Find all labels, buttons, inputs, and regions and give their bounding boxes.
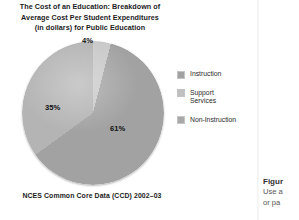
legend-item-non-instruction: Non-Instruction bbox=[177, 116, 257, 125]
chart-title-line-2: Average Cost Per Student Expenditures bbox=[0, 13, 180, 24]
figure-caption-line-1: Use a bbox=[263, 187, 299, 198]
pie-label-instruction: 61% bbox=[110, 124, 125, 133]
legend-label-non-instruction: Non-Instruction bbox=[190, 116, 236, 125]
figure-caption-title: Figur bbox=[263, 176, 299, 187]
legend-swatch-instruction bbox=[177, 71, 185, 79]
chart-source-note: NCES Common Core Data (CCD) 2002–03 bbox=[0, 192, 184, 199]
chart-title-line-1: The Cost of an Education: Breakdown of bbox=[0, 2, 180, 13]
legend-item-support-services: Support Services bbox=[177, 89, 257, 106]
figure-caption-panel: Figur Use a or pa bbox=[263, 176, 299, 208]
pie-disc bbox=[22, 41, 164, 185]
pie-label-support-services: 35% bbox=[45, 103, 60, 112]
pie-chart: 4% 35% 61% bbox=[22, 41, 164, 185]
legend-item-instruction: Instruction bbox=[177, 70, 257, 79]
legend-label-instruction: Instruction bbox=[190, 70, 221, 79]
chart-title: The Cost of an Education: Breakdown of A… bbox=[0, 2, 180, 34]
legend-swatch-non-instruction bbox=[177, 116, 185, 124]
legend-swatch-support-services bbox=[177, 89, 185, 97]
pie-slice-non-instruction bbox=[22, 41, 164, 185]
pie-label-non-instruction: 4% bbox=[82, 36, 93, 45]
page-gutter-divider bbox=[257, 0, 259, 220]
figure-panel: The Cost of an Education: Breakdown of A… bbox=[0, 0, 257, 220]
chart-legend: Instruction Support Services Non-Instruc… bbox=[177, 70, 257, 134]
figure-caption-line-2: or pa bbox=[263, 198, 299, 209]
chart-title-line-3: (in dollars) for Public Education bbox=[0, 23, 180, 34]
legend-label-support-services: Support Services bbox=[190, 89, 216, 106]
